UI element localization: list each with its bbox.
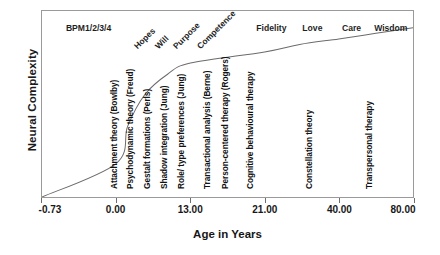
plot-area: BPM1/2/3/4HopesWillPurposeCompetenceFide…	[41, 10, 414, 198]
x-tick-label: 21.00	[252, 204, 277, 215]
x-tick-mark	[116, 198, 117, 203]
x-axis-title: Age in Years	[41, 228, 414, 240]
curve-path	[42, 28, 413, 197]
chart-figure: Neural Complexity BPM1/2/3/4HopesWillPur…	[0, 0, 440, 255]
x-tick-label: -0.73	[39, 204, 62, 215]
y-axis-title: Neural Complexity	[26, 20, 38, 180]
x-axis-ticks: -0.730.0013.0021.0040.0080.00	[41, 198, 414, 204]
x-tick-label: 0.00	[106, 204, 125, 215]
x-tick-mark	[190, 198, 191, 203]
x-tick-mark	[339, 198, 340, 203]
neural-complexity-curve	[42, 11, 413, 197]
x-tick-label: 80.00	[390, 204, 415, 215]
x-tick-mark	[265, 198, 266, 203]
x-tick-label: 13.00	[178, 204, 203, 215]
x-tick-label: 40.00	[327, 204, 352, 215]
x-tick-mark	[414, 198, 415, 203]
x-tick-mark	[41, 198, 42, 203]
